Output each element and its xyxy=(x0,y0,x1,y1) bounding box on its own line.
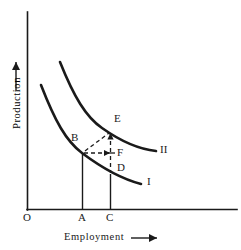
dashed-connector-B-E xyxy=(85,133,109,151)
x-axis-label: Employment xyxy=(64,232,124,243)
point-label-D: D xyxy=(117,162,125,173)
x-tick-label-A: A xyxy=(78,212,86,223)
curve-label-II: II xyxy=(160,144,168,155)
x-tick-label-C: C xyxy=(106,212,114,223)
origin-label: O xyxy=(23,212,31,223)
point-label-F: F xyxy=(117,147,123,158)
point-label-B: B xyxy=(71,132,79,143)
indifference-curve-figure: O A C B E F D I II Employment Production xyxy=(0,0,241,250)
y-axis-label-wrapper: Production xyxy=(6,67,20,139)
curve-label-I: I xyxy=(147,176,151,187)
y-axis-label: Production xyxy=(11,77,22,129)
curve-I xyxy=(41,85,141,184)
figure-canvas xyxy=(0,0,241,250)
point-label-E: E xyxy=(114,113,121,124)
